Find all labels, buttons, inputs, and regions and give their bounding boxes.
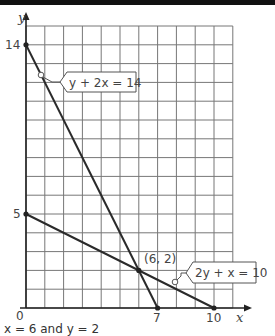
y-tick-14: 14	[5, 38, 20, 52]
point-10-0	[211, 305, 216, 310]
callout-anchor-1	[38, 72, 44, 78]
point-0-14	[23, 42, 28, 47]
caption: x = 6 and y = 2	[4, 322, 99, 336]
x-tick-7: 7	[153, 311, 161, 325]
y-axis-label: y	[17, 10, 26, 25]
intersection-point	[136, 268, 141, 273]
x-axis-arrow-icon	[244, 305, 252, 312]
point-0-5	[23, 211, 28, 216]
point-7-0	[155, 305, 160, 310]
callout-anchor-2	[172, 279, 178, 285]
x-axis-label: x	[236, 310, 244, 325]
intersection-label: (6, 2)	[144, 252, 176, 266]
origin-label: 0	[16, 309, 24, 323]
equation-label-1: y + 2x = 14	[69, 76, 141, 90]
callout-leader-1	[43, 77, 60, 82]
y-tick-5: 5	[13, 207, 21, 221]
callout-leader-2	[177, 273, 187, 280]
equation-label-2: 2y + x = 10	[195, 266, 267, 280]
x-tick-10: 10	[206, 311, 221, 325]
